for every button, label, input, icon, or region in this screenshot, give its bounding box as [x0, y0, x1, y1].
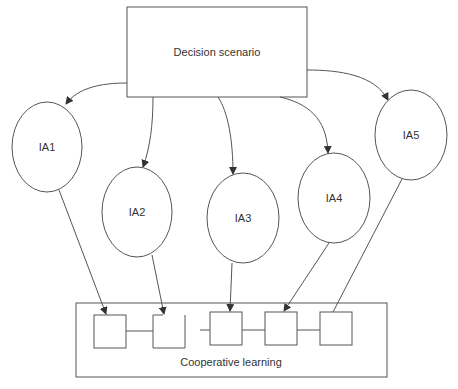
edge-ds-ia5 — [307, 70, 388, 100]
edge-ia1-slot1 — [59, 190, 106, 314]
slot-5 — [320, 312, 352, 345]
agent-ia5-label: IA5 — [403, 129, 420, 141]
slot-1 — [94, 315, 126, 348]
slot-3 — [210, 312, 242, 345]
decision-scenario-label: Decision scenario — [174, 46, 261, 58]
slot-4 — [265, 312, 297, 345]
agent-ia1: IA1 — [12, 102, 82, 192]
edge-ia4-slot4 — [284, 243, 329, 311]
edge-ds-ia4 — [280, 97, 328, 153]
agent-ia3: IA3 — [207, 173, 279, 263]
agent-ia2-label: IA2 — [129, 206, 146, 218]
agent-ia2: IA2 — [102, 167, 172, 257]
edge-ds-ia2 — [143, 97, 153, 167]
agent-ia3-label: IA3 — [235, 212, 252, 224]
agent-ia1-label: IA1 — [39, 141, 56, 153]
edge-ds-ia3 — [218, 97, 233, 174]
slot-2 — [153, 315, 185, 348]
diagram-canvas: Decision scenario IA1 IA2 IA3 IA4 IA5 Co… — [0, 0, 458, 389]
agent-ia4: IA4 — [298, 153, 370, 243]
cooperative-learning-label: Cooperative learning — [180, 356, 282, 368]
agent-ia5: IA5 — [375, 90, 447, 180]
edge-ds-ia1 — [66, 83, 127, 104]
decision-scenario-node: Decision scenario — [127, 7, 307, 97]
agent-ia4-label: IA4 — [326, 192, 343, 204]
